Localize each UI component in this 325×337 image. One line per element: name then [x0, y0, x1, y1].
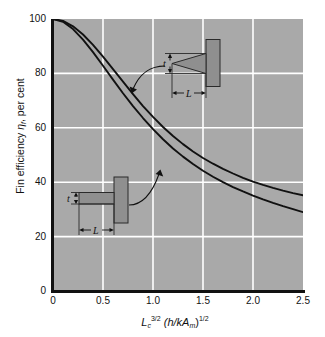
plot-svg: t L	[53, 19, 303, 291]
y-tick-80: 80	[16, 68, 46, 78]
plot-area: t L	[53, 19, 303, 291]
y-tick-20: 20	[16, 232, 46, 242]
y-tick-0: 0	[16, 286, 46, 296]
y-axis-label-post: , per cent	[14, 78, 26, 122]
rectangular-fin-leader-line	[129, 174, 159, 205]
triangular-fin-length-label: L	[185, 88, 192, 99]
x-axis-label-sup-32: 3/2	[151, 315, 161, 322]
rectangular-fin-leader-arrowhead	[156, 169, 164, 176]
rectangular-fin-thickness-label: t	[67, 193, 70, 204]
y-tick-100: 100	[16, 14, 46, 24]
x-tick-1.5: 1.5	[188, 296, 218, 306]
y-tick-60: 60	[16, 123, 46, 133]
triangular-fin-thickness-label: t	[163, 58, 166, 69]
y-tick-40: 40	[16, 177, 46, 187]
x-tick-2.0: 2.0	[238, 296, 268, 306]
x-axis-label-mid: (h/kA	[164, 316, 190, 328]
x-axis-line	[51, 290, 305, 293]
x-axis-label: Lc3/2 (h/kAm)1/2	[80, 312, 270, 332]
triangular-fin-diagram: t L	[130, 40, 220, 100]
rectangular-fin-diagram: t L	[67, 169, 163, 236]
curve-triangular-fin	[53, 19, 303, 195]
x-tick-0.5: 0.5	[88, 296, 118, 306]
curve-rectangular-fin	[53, 19, 303, 212]
y-axis-line	[51, 19, 54, 293]
vertical-gridlines	[103, 19, 253, 291]
horizontal-gridlines	[53, 73, 303, 236]
x-tick-2.5: 2.5	[288, 296, 318, 306]
x-tick-1.0: 1.0	[138, 296, 168, 306]
rectangular-fin-length-label: L	[92, 225, 99, 236]
x-tick-0: 0	[38, 296, 68, 306]
x-axis-label-sup-12: 1/2	[199, 315, 209, 322]
x-axis-label-sub-c: c	[147, 322, 151, 329]
triangular-fin-leader-line	[133, 66, 165, 89]
fin-efficiency-chart: Fin efficiency ηf, per cent 100 80 60 40…	[0, 0, 325, 337]
